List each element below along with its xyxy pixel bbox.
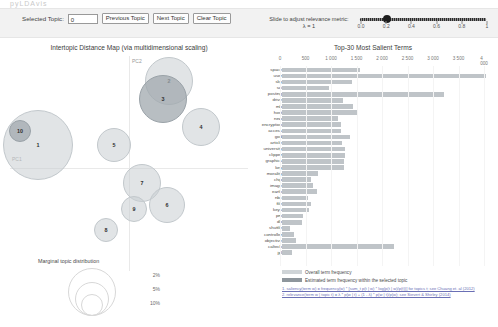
topic-bubble-10[interactable]: 10 (9, 120, 31, 142)
marginal-legend-value: 5% (130, 282, 160, 296)
relevance-slider-track[interactable] (360, 18, 486, 21)
term-bar-wrapper (282, 177, 486, 182)
marginal-legend-values: 2%5%10% (130, 268, 160, 310)
bar-chart-footnotes: 1. saliency(term w) = frequency(w) * [su… (282, 286, 496, 298)
x-axis-tick-label: 1 000 (325, 56, 337, 61)
overall-frequency-bar (282, 68, 360, 73)
term-bar-wrapper (282, 98, 486, 103)
topic-bubble-label: 7 (141, 180, 144, 186)
term-bar-wrapper (282, 116, 486, 121)
lambda-value-label: λ = 1 (266, 23, 352, 30)
x-axis-tick-label: 3 500 (453, 56, 465, 61)
overall-frequency-bar (282, 244, 394, 249)
term-bar-wrapper (282, 232, 486, 237)
term-bar-wrapper (282, 110, 486, 115)
overall-frequency-bar (282, 122, 341, 127)
intertopic-map-title: Intertopic Distance Map (via multidimens… (10, 44, 248, 51)
marginal-legend-ring (68, 268, 116, 316)
selected-topic-input[interactable]: 0 (68, 14, 98, 24)
relevance-slider-label: Slide to adjust relevance metric: λ = 1 (266, 16, 352, 30)
legend-label: Estimated term frequency within the sele… (305, 278, 407, 283)
overall-frequency-bar (282, 153, 345, 158)
overall-frequency-bar (282, 214, 303, 219)
topic-controls: Selected Topic: 0 Previous Topic Next To… (22, 13, 231, 24)
slider-tick-label: 0.2 (383, 23, 390, 29)
slider-track-fill (360, 18, 486, 21)
x-axis-tick-label: 1 500 (351, 56, 363, 61)
marginal-legend-title: Marginal topic distribution (38, 258, 188, 264)
salient-terms-panel: Top-30 Most Salient Terms 05001 0001 500… (250, 40, 496, 318)
overall-frequency-bar (282, 116, 338, 121)
topic-bubble-8[interactable]: 8 (94, 218, 118, 242)
slider-tick-label: 0.6 (433, 23, 440, 29)
x-axis-gridline (408, 66, 409, 266)
relevance-slider-handle[interactable] (383, 15, 391, 23)
relevance-slider-ticks: 0.00.20.40.60.81 (358, 23, 490, 35)
term-bar-wrapper (282, 196, 486, 201)
x-axis-tick-label: 0 (279, 56, 282, 61)
overall-frequency-bar (282, 147, 345, 152)
term-bar-wrapper (282, 250, 486, 255)
legend-entry: Estimated term frequency within the sele… (282, 276, 496, 284)
overall-frequency-bar (282, 232, 294, 237)
topic-bubble-3[interactable]: 3 (139, 75, 187, 123)
overall-frequency-bar (282, 98, 343, 103)
x-axis-tick-label: 2 000 (376, 56, 388, 61)
previous-topic-button[interactable]: Previous Topic (102, 13, 149, 24)
intertopic-scatter-plot[interactable]: PC2 PC1 11023457968 (10, 56, 248, 271)
topic-bubble-label: 6 (166, 202, 169, 208)
legend-swatch (282, 270, 302, 275)
topic-bubble-label: 1 (37, 142, 40, 148)
topic-bubble-6[interactable]: 6 (149, 187, 185, 223)
overall-frequency-bar (282, 183, 313, 188)
slider-tick-label: 1 (486, 23, 489, 29)
term-bar-wrapper (282, 189, 486, 194)
topic-bubble-label: 5 (113, 142, 116, 148)
overall-frequency-bar (282, 110, 358, 115)
topic-bubble-label: 8 (105, 227, 108, 233)
x-axis-gridline (357, 66, 358, 266)
x-axis-gridline (382, 66, 383, 266)
relevance-slider-group: Slide to adjust relevance metric: λ = 1 … (262, 11, 494, 37)
topic-bubble-5[interactable]: 5 (97, 128, 131, 162)
x-axis-gridline (306, 66, 307, 266)
overall-frequency-bar (282, 135, 350, 140)
term-bar-wrapper (282, 129, 486, 134)
term-bar-wrapper (282, 104, 486, 109)
slider-tick-label: 0.0 (358, 23, 365, 29)
term-bar-wrapper (282, 92, 486, 97)
x-axis-gridline (280, 66, 281, 266)
x-axis-gridline (433, 66, 434, 266)
x-axis-tick-label: 2 500 (402, 56, 414, 61)
term-bar-wrapper (282, 74, 486, 79)
overall-frequency-bar (282, 196, 308, 201)
overall-frequency-bar (282, 104, 353, 109)
clear-topic-button[interactable]: Clear Topic (193, 13, 231, 24)
next-topic-button[interactable]: Next Topic (153, 13, 189, 24)
term-label: jpl (236, 250, 282, 256)
x-axis-tick-label: 500 (302, 56, 310, 61)
term-bar-wrapper (282, 165, 486, 170)
salient-terms-bar-chart: 05001 0001 5002 0002 5003 0003 5004 000 … (250, 56, 496, 271)
x-axis-gridline (331, 66, 332, 266)
intertopic-distance-panel: Intertopic Distance Map (via multidimens… (10, 40, 248, 318)
overall-frequency-bar (282, 238, 296, 243)
page-watermark-text: pyLDAvis (10, 0, 47, 7)
overall-frequency-bar (282, 165, 344, 170)
overall-frequency-bar (282, 74, 486, 79)
pyldavis-visualization: pyLDAvis Selected Topic: 0 Previous Topi… (0, 0, 498, 327)
topic-bubble-label: 10 (17, 128, 23, 134)
legend-entry: Overall term frequency (282, 268, 496, 276)
legend-label: Overall term frequency (305, 270, 351, 275)
term-bar-wrapper (282, 122, 486, 127)
pc2-axis-line (129, 56, 130, 271)
footnote-link[interactable]: 2. relevance(term w | topic t) = λ * p(w… (282, 292, 496, 298)
overall-frequency-bar (282, 220, 302, 225)
bar-chart-legend: Overall term frequencyEstimated term fre… (282, 268, 496, 284)
salient-terms-title: Top-30 Most Salient Terms (250, 44, 496, 51)
term-bar-wrapper (282, 141, 486, 146)
overall-frequency-bar (282, 171, 318, 176)
topic-bubble-4[interactable]: 4 (182, 108, 220, 146)
topic-bubble-9[interactable]: 9 (121, 196, 147, 222)
term-bar-wrapper (282, 80, 486, 85)
